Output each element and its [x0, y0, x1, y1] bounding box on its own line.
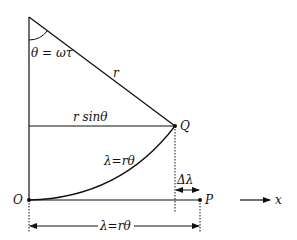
lambda-bottom-label: λ=rθ [99, 219, 131, 233]
rolling-circle-diagram: θ = ωτ r r sinθ Q λ=rθ Δλ O P λ=rθ x [0, 0, 297, 240]
point-p [198, 198, 202, 202]
p-label: P [204, 193, 214, 207]
lambda-curve-label: λ=rθ [103, 154, 135, 168]
r-label: r [113, 66, 120, 80]
o-label: O [13, 193, 23, 207]
delta-lambda-label: Δλ [176, 173, 193, 187]
q-label: Q [180, 119, 190, 133]
x-label: x [275, 193, 282, 207]
point-q [173, 124, 177, 128]
r-sin-theta-label: r sinθ [73, 110, 108, 124]
angle-arc [29, 31, 48, 41]
lambda-curve [29, 126, 175, 200]
theta-label: θ = ωτ [31, 46, 73, 60]
point-o [27, 198, 31, 202]
